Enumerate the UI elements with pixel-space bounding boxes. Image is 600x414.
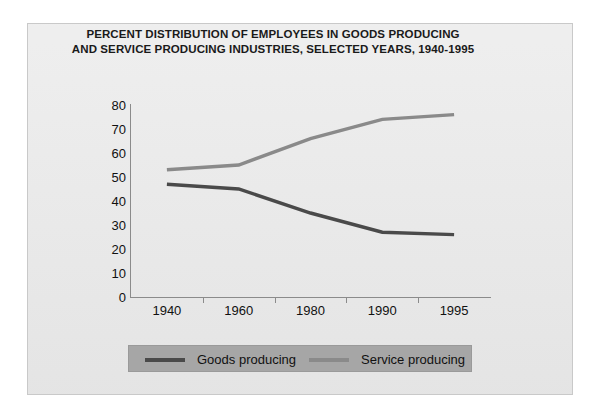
chart-page: PERCENT DISTRIBUTION OF EMPLOYEES IN GOO… xyxy=(0,0,600,414)
legend-item-goods-producing: Goods producing xyxy=(145,346,296,373)
series-line xyxy=(167,115,454,170)
chart-legend: Goods producing Service producing xyxy=(128,345,472,372)
legend-label-goods-producing: Goods producing xyxy=(197,353,296,367)
legend-item-service-producing: Service producing xyxy=(309,346,465,373)
series-line xyxy=(167,184,454,234)
legend-swatch-goods-producing xyxy=(145,358,185,362)
legend-swatch-service-producing xyxy=(309,358,349,362)
legend-label-service-producing: Service producing xyxy=(361,353,465,367)
